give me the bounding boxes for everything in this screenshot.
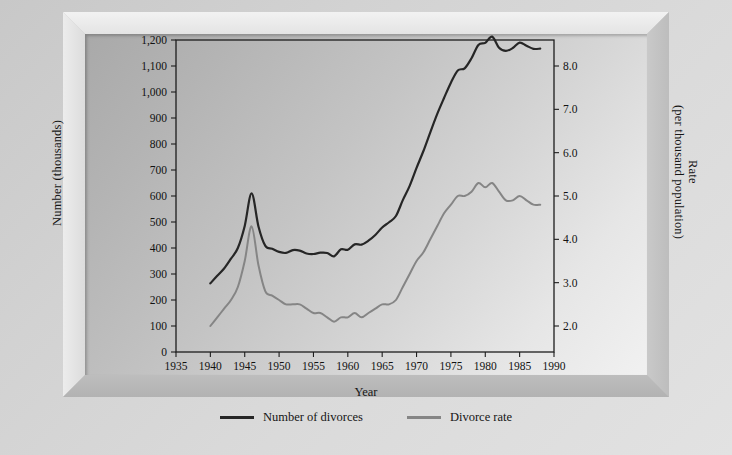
y-axis-left-tick-label: 1,200 [141,34,167,47]
y-axis-left-tick-label: 800 [150,138,168,150]
x-axis-tick-label: 1935 [165,360,188,372]
x-axis-tick-label: 1990 [543,360,566,372]
x-axis-tick-label: 1940 [199,360,222,372]
x-axis-tick-label: 1985 [508,360,531,372]
legend-label-number-of-divorces: Number of divorces [263,410,363,425]
y-axis-left-tick-label: 100 [150,320,168,332]
y-axis-right-tick-label: 4.0 [563,233,578,245]
legend-label-divorce-rate: Divorce rate [450,410,512,425]
x-axis-tick-label: 1970 [405,360,428,372]
plot-border [176,40,554,352]
y-axis-left-tick-label: 900 [150,112,168,124]
series-line-number-of-divorces [210,37,540,284]
y-axis-right-tick-label: 8.0 [563,60,578,72]
x-axis-tick-label: 1980 [474,360,497,372]
y-axis-left-tick-label: 500 [150,216,168,228]
y-axis-right-tick-label: 5.0 [563,190,578,202]
chart-legend: Number of divorces Divorce rate [0,410,732,425]
y-axis-left-tick-label: 700 [150,164,168,176]
y-axis-right-tick-label: 2.0 [563,320,578,332]
y-axis-left-tick-label: 400 [150,242,168,254]
y-axis-left-tick-label: 0 [161,346,167,358]
y-axis-left-tick-label: 300 [150,268,168,280]
y-axis-right-tick-label: 3.0 [563,277,578,289]
x-axis-tick-label: 1950 [268,360,291,372]
y-axis-left-tick-label: 200 [150,294,168,306]
y-axis-left-tick-label: 600 [150,190,168,202]
y-axis-left-tick-label: 1,000 [141,86,167,99]
y-axis-left-tick-label: 1,100 [141,60,167,73]
y-axis-right-tick-label: 7.0 [563,103,578,115]
x-axis-tick-label: 1955 [302,360,325,372]
legend-item-number-of-divorces: Number of divorces [220,410,363,425]
legend-swatch-divorce-rate [407,416,441,419]
x-axis-tick-label: 1960 [336,360,359,372]
y-axis-right-tick-label: 6.0 [563,147,578,159]
x-axis-tick-label: 1975 [439,360,462,372]
legend-swatch-number-of-divorces [220,416,254,419]
legend-item-divorce-rate: Divorce rate [407,410,512,425]
x-axis-tick-label: 1965 [371,360,394,372]
chart-plot: 01002003004005006007008009001,0001,1001,… [0,0,732,455]
x-axis-tick-label: 1945 [233,360,256,372]
series-line-divorce-rate [210,183,540,326]
